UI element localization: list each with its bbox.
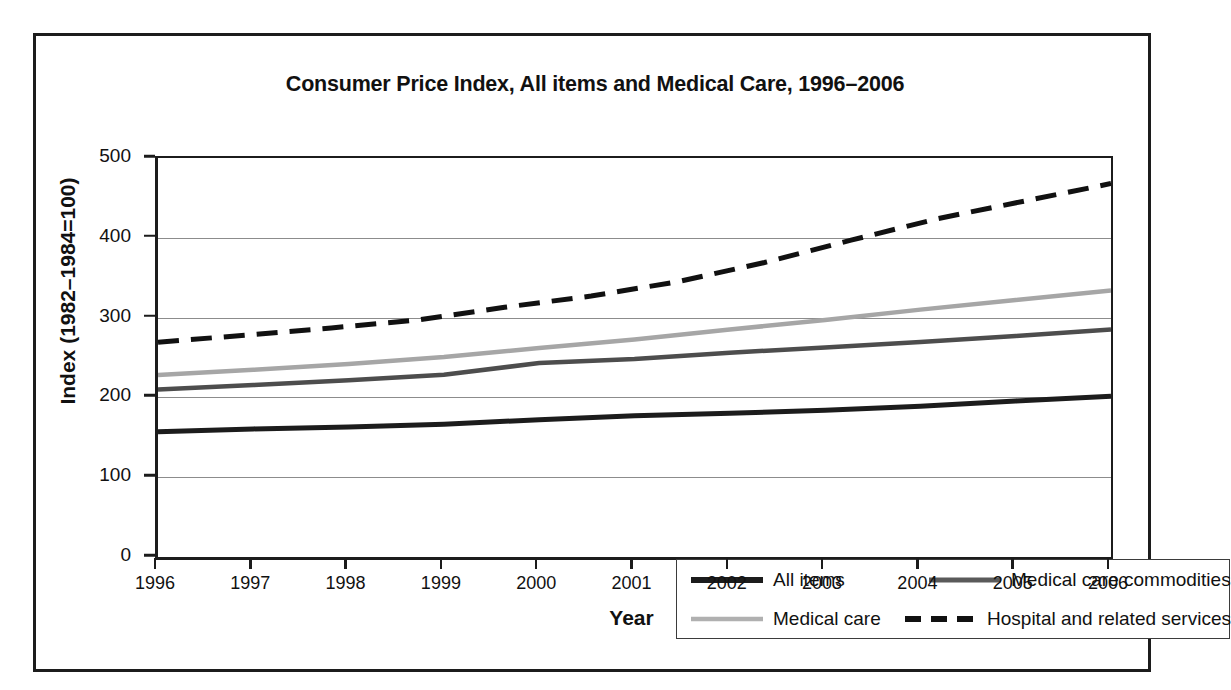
x-tick-label-2006: 2006 bbox=[1088, 573, 1128, 594]
y-tick-mark-500 bbox=[144, 155, 155, 158]
x-tick-mark-1998 bbox=[344, 558, 347, 569]
x-tick-mark-1996 bbox=[154, 558, 157, 569]
x-tick-label-2002: 2002 bbox=[707, 573, 747, 594]
x-tick-mark-2005 bbox=[1011, 558, 1014, 569]
y-axis-tick-labels: 0 100 200 300 400 500 bbox=[71, 156, 131, 555]
series-lines bbox=[158, 158, 1111, 557]
x-tick-mark-1999 bbox=[440, 558, 443, 569]
y-tick-label-200: 200 bbox=[71, 384, 131, 406]
x-tick-label-2005: 2005 bbox=[993, 573, 1033, 594]
x-tick-mark-2006 bbox=[1107, 558, 1110, 569]
y-tick-mark-0 bbox=[144, 554, 155, 557]
chart-frame: Consumer Price Index, All items and Medi… bbox=[33, 33, 1151, 672]
x-tick-label-2003: 2003 bbox=[802, 573, 842, 594]
x-tick-mark-2002 bbox=[726, 558, 729, 569]
x-tick-label-2000: 2000 bbox=[516, 573, 556, 594]
x-tick-label-1996: 1996 bbox=[135, 573, 175, 594]
x-axis-ticks bbox=[155, 558, 1108, 569]
y-tick-label-500: 500 bbox=[71, 145, 131, 167]
y-tick-label-300: 300 bbox=[71, 305, 131, 327]
x-tick-mark-2003 bbox=[821, 558, 824, 569]
x-tick-mark-1997 bbox=[249, 558, 252, 569]
y-tick-label-0: 0 bbox=[71, 544, 131, 566]
y-tick-mark-200 bbox=[144, 394, 155, 397]
x-tick-mark-2000 bbox=[535, 558, 538, 569]
x-tick-mark-2004 bbox=[916, 558, 919, 569]
y-axis-ticks bbox=[144, 156, 155, 555]
y-tick-label-100: 100 bbox=[71, 464, 131, 486]
x-axis-title: Year bbox=[155, 606, 1108, 630]
x-tick-label-1998: 1998 bbox=[326, 573, 366, 594]
series-line-hospital-and-related-services bbox=[158, 184, 1111, 343]
chart-title: Consumer Price Index, All items and Medi… bbox=[36, 72, 1154, 97]
x-tick-label-2001: 2001 bbox=[611, 573, 651, 594]
y-tick-mark-400 bbox=[144, 235, 155, 238]
x-tick-label-1999: 1999 bbox=[421, 573, 461, 594]
y-tick-label-400: 400 bbox=[71, 225, 131, 247]
y-tick-mark-300 bbox=[144, 314, 155, 317]
series-line-all-items bbox=[158, 396, 1111, 432]
x-tick-mark-2001 bbox=[630, 558, 633, 569]
plot-area: All items Medical care commodities Medic… bbox=[155, 156, 1113, 560]
x-tick-label-1997: 1997 bbox=[230, 573, 270, 594]
x-axis-tick-labels: 1996199719981999200020012002200320042005… bbox=[155, 573, 1108, 597]
y-tick-mark-100 bbox=[144, 474, 155, 477]
x-tick-label-2004: 2004 bbox=[897, 573, 937, 594]
